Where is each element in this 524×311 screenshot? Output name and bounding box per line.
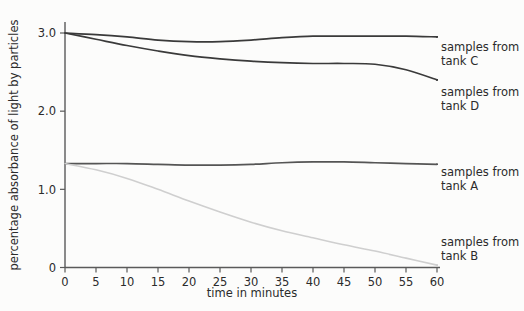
legend-label-line2: tank C	[441, 55, 519, 69]
series-line-tank-c	[65, 33, 437, 42]
y-axis-ticks	[60, 33, 65, 268]
x-tick-label: 5	[92, 275, 99, 289]
legend-label-line1: samples from	[441, 236, 519, 250]
data-series-group	[65, 33, 438, 265]
legend-label-line2: tank B	[441, 250, 519, 264]
y-tick-label: 1.0	[38, 183, 56, 197]
y-tick-label: 2.0	[38, 104, 56, 118]
legend-item-tank-a: samples from tank A	[441, 166, 519, 193]
legend-label-line2: tank A	[441, 180, 519, 194]
series-line-tank-a	[65, 162, 437, 165]
x-tick-label: 15	[151, 275, 166, 289]
x-tick-label: 60	[430, 275, 445, 289]
y-axis-title: percentage absorbance of light by partic…	[7, 20, 21, 271]
legend-item-tank-c: samples from tank C	[441, 41, 519, 68]
legend-item-tank-d: samples from tank D	[441, 86, 519, 113]
legend-label-line2: tank D	[441, 100, 519, 114]
x-tick-label: 50	[368, 275, 383, 289]
series-line-tank-b	[65, 164, 437, 266]
legend-label-line1: samples from	[441, 166, 519, 180]
y-axis-tick-labels: 3.02.01.00	[38, 26, 56, 275]
x-axis-title: time in minutes	[207, 286, 297, 300]
chart-container: 3.02.01.00 051015202530354045505560 time…	[0, 0, 524, 311]
legend-item-tank-b: samples from tank B	[441, 236, 519, 263]
x-axis-ticks	[65, 268, 437, 273]
y-tick-label: 3.0	[38, 26, 56, 40]
legend-label-line1: samples from	[441, 86, 519, 100]
x-tick-label: 55	[399, 275, 414, 289]
x-tick-label: 45	[337, 275, 352, 289]
x-tick-label: 0	[61, 275, 68, 289]
x-tick-label: 10	[120, 275, 135, 289]
y-tick-label: 0	[49, 261, 56, 275]
x-tick-label: 40	[306, 275, 321, 289]
legend-label-line1: samples from	[441, 41, 519, 55]
x-tick-label: 20	[182, 275, 197, 289]
